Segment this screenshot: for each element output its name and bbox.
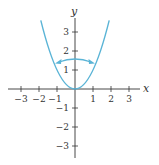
x-axis-label: x bbox=[143, 82, 150, 95]
y-axis-label: y bbox=[70, 5, 78, 18]
x-tick-label: 1 bbox=[90, 94, 96, 104]
y-tick-label: 1 bbox=[63, 65, 69, 75]
x-tick-label: 3 bbox=[126, 94, 132, 104]
x-tick-label: −2 bbox=[32, 94, 45, 104]
y-tick-label: −1 bbox=[56, 103, 69, 113]
y-tick-label: 2 bbox=[63, 46, 69, 56]
x-tick-label: −3 bbox=[14, 94, 28, 104]
parabola-plot: −3 −2 −1 1 2 3 3 2 1 −1 −2 −3 x y bbox=[0, 0, 159, 165]
arrowhead-right-icon bbox=[89, 59, 96, 64]
y-tick-label: −3 bbox=[56, 141, 70, 151]
x-tick-labels: −3 −2 −1 1 2 3 bbox=[14, 94, 132, 104]
axes bbox=[8, 18, 140, 158]
y-tick-label: −2 bbox=[56, 122, 69, 132]
y-tick-label: 3 bbox=[63, 27, 69, 37]
arrowhead-left-icon bbox=[55, 59, 62, 64]
x-tick-label: 2 bbox=[108, 94, 114, 104]
